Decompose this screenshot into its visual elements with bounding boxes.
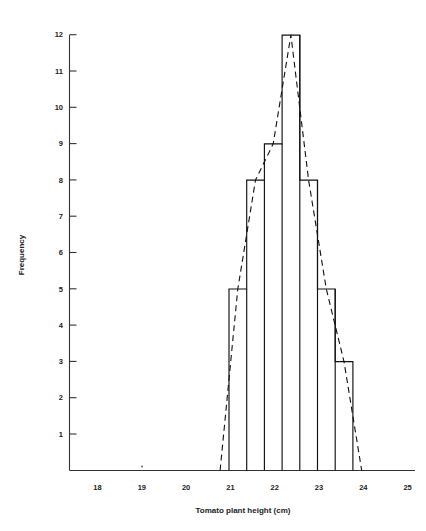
frequency-polygon-line	[220, 35, 362, 470]
y-axis-ticks	[70, 35, 77, 434]
x-tick-label: 24	[359, 483, 368, 492]
y-axis-title: Frequency	[17, 234, 26, 275]
x-axis-tick-labels: 18 19 20 21 22 23 24 25	[93, 483, 411, 492]
bar-silhouette	[229, 35, 353, 470]
x-tick-label: 25	[403, 483, 411, 492]
y-tick-label: 5	[59, 285, 63, 294]
histogram-figure: 12 11 10 9 8 7 6 5 4 3 2 1 Frequency 18 …	[0, 0, 426, 531]
y-tick-label: 12	[55, 30, 63, 39]
x-tick-label: 23	[315, 483, 323, 492]
y-tick-label: 11	[55, 67, 63, 76]
y-tick-label: 8	[59, 176, 63, 185]
x-tick-label: 18	[93, 483, 101, 492]
y-tick-label: 1	[59, 430, 63, 439]
y-tick-label: 3	[59, 357, 63, 366]
y-axis-tick-labels: 12 11 10 9 8 7 6 5 4 3 2 1	[55, 30, 64, 438]
chart-canvas: 12 11 10 9 8 7 6 5 4 3 2 1 Frequency 18 …	[0, 0, 426, 531]
y-tick-label: 9	[59, 139, 63, 148]
y-tick-label: 4	[59, 321, 64, 330]
x-tick-label: 20	[182, 483, 190, 492]
y-tick-label: 7	[59, 212, 63, 221]
x-tick-label: 19	[138, 483, 146, 492]
histogram-bars	[229, 35, 353, 470]
x-axis-title: Tomato plant height (cm)	[196, 506, 291, 515]
y-tick-label: 2	[59, 393, 63, 402]
y-tick-label: 6	[59, 248, 63, 257]
x-tick-label: 21	[226, 483, 234, 492]
scan-speck	[141, 466, 143, 468]
x-tick-label: 22	[271, 483, 279, 492]
y-tick-label: 10	[55, 103, 63, 112]
